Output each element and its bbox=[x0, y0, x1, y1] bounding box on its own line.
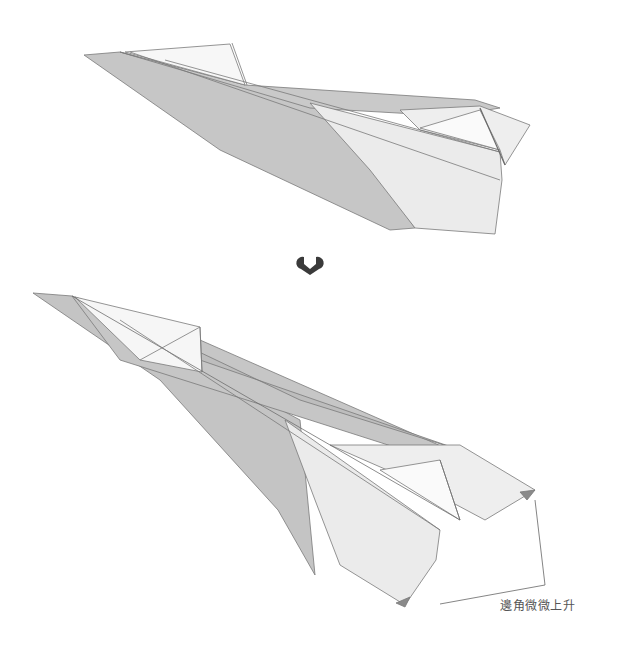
wing-tip-corner-right bbox=[520, 490, 535, 500]
annotation-label: 邊角微微上升 bbox=[500, 596, 575, 613]
diagram-canvas bbox=[0, 0, 628, 649]
airplane-after bbox=[33, 293, 535, 607]
airplane-before bbox=[84, 43, 530, 234]
down-arrow-icon bbox=[296, 257, 323, 275]
